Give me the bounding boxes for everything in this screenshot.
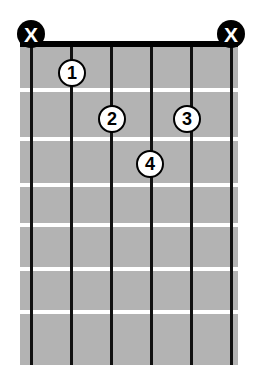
fret-line-5 <box>20 267 238 271</box>
fret-line-3 <box>20 183 238 187</box>
muted-string-x-icon-right[interactable]: X <box>217 20 245 48</box>
string-line-4 <box>150 47 153 365</box>
finger-dot-3[interactable]: 3 <box>173 105 201 133</box>
muted-string-x-icon-left[interactable]: X <box>17 20 45 48</box>
finger-dot-2[interactable]: 2 <box>98 105 126 133</box>
chord-diagram: X X 1 2 3 4 <box>0 0 255 388</box>
string-line-3 <box>110 47 113 365</box>
fret-line-2 <box>20 137 238 141</box>
string-line-6 <box>230 47 233 365</box>
string-line-5 <box>190 47 193 365</box>
fret-line-4 <box>20 223 238 227</box>
string-line-1 <box>30 47 33 365</box>
string-line-2 <box>70 47 73 365</box>
finger-dot-1[interactable]: 1 <box>58 59 86 87</box>
fret-line-1 <box>20 88 238 92</box>
finger-dot-4[interactable]: 4 <box>136 150 164 178</box>
fret-line-6 <box>20 310 238 314</box>
nut-bar <box>20 41 238 47</box>
fretboard <box>20 47 238 365</box>
